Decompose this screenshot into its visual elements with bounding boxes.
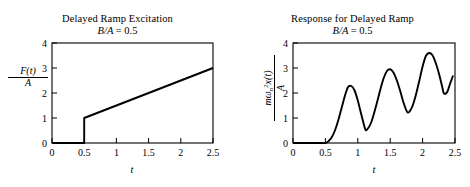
panel-delayed-ramp-excitation: Delayed Ramp Excitation B/A = 0.5 F(t) A… <box>0 0 235 187</box>
left-y-tick-3: 3 <box>42 63 47 74</box>
right-x-ticks: 0 0.5 1 1.5 2 2.5 <box>291 138 462 158</box>
right-y-tick-3: 3 <box>283 63 288 74</box>
right-x-axis-label: t <box>373 164 377 175</box>
right-y-tick-4: 4 <box>283 38 288 49</box>
left-x-tick-2: 1 <box>114 147 119 158</box>
left-x-tick-3: 1.5 <box>142 147 155 158</box>
right-x-tick-1: 0.5 <box>319 147 332 158</box>
right-x-tick-2: 1 <box>355 147 360 158</box>
left-x-tick-5: 2.5 <box>207 147 220 158</box>
right-plot-area: 0 1 2 3 4 0 0.5 1 1.5 2 2.5 t <box>235 0 470 187</box>
right-plot-frame <box>293 43 455 143</box>
left-plot-area: 0 1 2 3 4 0 0.5 1 1.5 2 2.5 t <box>0 0 235 187</box>
right-y-tick-1: 1 <box>283 113 288 124</box>
left-y-tick-4: 4 <box>42 38 47 49</box>
figure-container: Delayed Ramp Excitation B/A = 0.5 F(t) A… <box>0 0 470 187</box>
right-x-tick-5: 2.5 <box>449 147 462 158</box>
left-x-tick-0: 0 <box>50 147 55 158</box>
left-y-tick-1: 1 <box>42 113 47 124</box>
left-x-tick-1: 0.5 <box>78 147 91 158</box>
right-y-tick-2: 2 <box>283 88 288 99</box>
right-data-curve <box>293 53 453 143</box>
left-data-curve <box>52 68 213 143</box>
left-x-ticks: 0 0.5 1 1.5 2 2.5 <box>50 138 220 158</box>
panel-response-for-delayed-ramp: Response for Delayed Ramp B/A = 0.5 mωn2… <box>235 0 470 187</box>
right-x-tick-3: 1.5 <box>384 147 397 158</box>
left-y-tick-2: 2 <box>42 88 47 99</box>
left-plot-frame <box>52 43 213 143</box>
right-x-tick-4: 2 <box>420 147 425 158</box>
left-x-tick-4: 2 <box>178 147 183 158</box>
left-y-tick-0: 0 <box>42 138 47 149</box>
left-x-axis-label: t <box>131 164 135 175</box>
left-y-ticks: 0 1 2 3 4 <box>42 38 57 149</box>
right-y-tick-0: 0 <box>283 138 288 149</box>
right-x-tick-0: 0 <box>291 147 296 158</box>
right-y-ticks: 0 1 2 3 4 <box>283 38 298 149</box>
